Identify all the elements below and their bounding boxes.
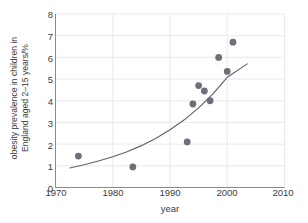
data-point (195, 82, 202, 89)
plot-area (0, 0, 308, 223)
data-point (215, 54, 222, 61)
data-point (207, 97, 214, 104)
data-point (129, 164, 136, 171)
data-point (190, 101, 197, 108)
data-point (75, 153, 82, 160)
gridlines (56, 14, 285, 188)
data-point (230, 39, 237, 46)
data-point (184, 139, 191, 146)
data-point (224, 68, 231, 75)
data-point (201, 88, 208, 95)
chart-container: obesity prevalence in children in Englan… (0, 0, 308, 223)
data-points (75, 39, 236, 171)
